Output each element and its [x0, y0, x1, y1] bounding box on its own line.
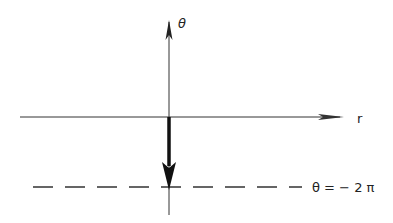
r-axis-label: r — [357, 111, 363, 126]
phase-diagram: θ r θ = − 2 π — [0, 0, 393, 223]
theta-axis-label: θ — [178, 16, 186, 31]
reference-line-label: θ = − 2 π — [312, 180, 375, 195]
r-axis — [20, 114, 344, 120]
downward-vector — [162, 117, 176, 190]
